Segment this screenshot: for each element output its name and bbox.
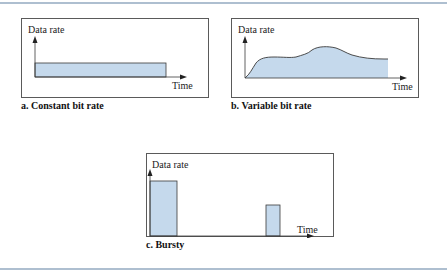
panel-variable-bit-rate: Data rate Time [231, 18, 419, 98]
top-rule [0, 2, 447, 4]
x-axis-label: Time [172, 80, 193, 91]
caption-c: c. Bursty [146, 239, 184, 250]
x-axis-label: Time [297, 224, 318, 235]
panel-bursty: Data rate Time [146, 153, 334, 237]
bottom-rule [0, 268, 447, 270]
caption-a: a. Constant bit rate [21, 100, 104, 111]
caption-b: b. Variable bit rate [231, 100, 312, 111]
panel-constant-bit-rate: Data rate Time [21, 18, 209, 98]
x-axis-label: Time [392, 81, 413, 92]
